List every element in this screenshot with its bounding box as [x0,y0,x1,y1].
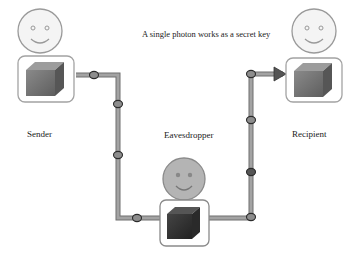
smiley-face-icon [18,9,62,53]
smiley-face-icon [163,158,205,200]
channel-node-icon [247,116,256,123]
diagram-title: A single photon works as a secret key [142,29,270,39]
cube-icon [294,63,332,97]
eavesdropper-figure [160,158,209,246]
diagram: A single photon works as a secret key Se… [0,0,359,258]
channel-node-icon [133,214,142,221]
channel-node-icon [247,213,256,220]
channel-node-icon [90,71,99,78]
channel-node-icon [114,100,123,107]
channel-nodes [90,70,256,221]
cube-icon [167,207,200,239]
recipient-figure [286,9,342,102]
channel-node-icon [114,151,123,158]
channel-node-icon [247,168,256,175]
sender-label: Sender [27,129,52,139]
eavesdropper-label: Eavesdropper [164,130,213,140]
cube-icon [26,62,64,96]
recipient-label: Recipient [292,129,327,139]
smiley-face-icon [292,9,336,53]
arrow-right-icon [274,67,286,81]
sender-figure [18,9,74,102]
channel-node-icon [247,70,256,77]
